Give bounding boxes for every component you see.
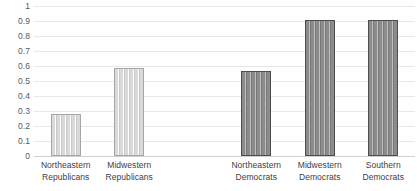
x-axis-label: MidwesternRepublicans xyxy=(98,158,162,191)
y-tick-label: 0.9 xyxy=(0,17,30,25)
bar-slot xyxy=(98,6,162,156)
bar-slot xyxy=(225,6,289,156)
y-tick-label: 0.7 xyxy=(0,47,30,55)
bar-slot xyxy=(161,6,225,156)
x-axis-label-line2: Republicans xyxy=(34,172,98,184)
bar[interactable] xyxy=(114,68,144,157)
x-axis-label-line2: Democrats xyxy=(352,172,416,184)
y-tick-label: 0.4 xyxy=(0,92,30,100)
bar-slot xyxy=(352,6,416,156)
x-axis-label-line2: Democrats xyxy=(288,172,352,184)
y-axis: 10.90.80.70.60.50.40.30.20.10 xyxy=(0,6,34,156)
x-axis-label-line1: Northeastern xyxy=(34,160,98,172)
bar-slot xyxy=(288,6,352,156)
x-axis-label-line1: Midwestern xyxy=(98,160,162,172)
x-axis-label: MidwesternDemocrats xyxy=(288,158,352,191)
axis-baseline xyxy=(34,156,415,157)
x-axis-label-line1: Midwestern xyxy=(288,160,352,172)
x-axis-label-line1: Northeastern xyxy=(225,160,289,172)
bar-chart: 10.90.80.70.60.50.40.30.20.10 Northeaste… xyxy=(0,0,417,191)
x-axis-label-line2: Democrats xyxy=(225,172,289,184)
y-tick-label: 0.5 xyxy=(0,77,30,85)
plot-area xyxy=(34,6,415,156)
x-axis-label: NortheasternRepublicans xyxy=(34,158,98,191)
bar[interactable] xyxy=(51,114,81,156)
y-tick-label: 0.1 xyxy=(0,137,30,145)
bar-series xyxy=(34,6,415,156)
bar[interactable] xyxy=(368,20,398,157)
y-tick-label: 1 xyxy=(0,2,30,10)
x-axis-labels: NortheasternRepublicansMidwesternRepubli… xyxy=(34,158,415,191)
x-axis-label-line2: Republicans xyxy=(98,172,162,184)
y-tick-label: 0.3 xyxy=(0,107,30,115)
x-axis-label: NortheasternDemocrats xyxy=(225,158,289,191)
x-axis-label: SouthernDemocrats xyxy=(352,158,416,191)
bar[interactable] xyxy=(241,71,271,157)
y-tick-label: 0.6 xyxy=(0,62,30,70)
y-tick-label: 0.2 xyxy=(0,122,30,130)
bar[interactable] xyxy=(305,20,335,156)
x-axis-label xyxy=(161,158,225,191)
bar-slot xyxy=(34,6,98,156)
y-tick-label: 0.8 xyxy=(0,32,30,40)
x-axis-label-line1: Southern xyxy=(352,160,416,172)
y-tick-label: 0 xyxy=(0,152,30,160)
